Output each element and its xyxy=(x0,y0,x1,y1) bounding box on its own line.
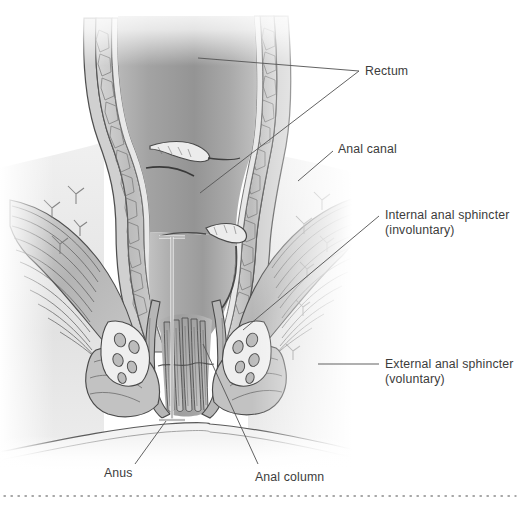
label-anus: Anus xyxy=(104,466,133,481)
label-internal-anal-sphincter-line1: Internal anal sphincter xyxy=(385,208,509,222)
label-internal-anal-sphincter: Internal anal sphincter(involuntary) xyxy=(385,208,509,237)
label-external-anal-sphincter-line2: (voluntary) xyxy=(385,372,514,387)
fade-right xyxy=(252,0,352,470)
anatomy-illustration xyxy=(0,0,520,512)
label-anal-canal: Anal canal xyxy=(338,142,397,157)
label-rectum-line1: Rectum xyxy=(365,64,408,78)
label-internal-anal-sphincter-line2: (involuntary) xyxy=(385,223,509,238)
label-rectum: Rectum xyxy=(365,64,408,79)
label-anal-canal-line1: Anal canal xyxy=(338,142,397,156)
label-anus-line1: Anus xyxy=(104,466,133,480)
label-external-anal-sphincter: External anal sphincter(voluntary) xyxy=(385,357,514,386)
label-anal-column: Anal column xyxy=(255,470,324,485)
fade-bottom xyxy=(0,436,352,470)
label-external-anal-sphincter-line1: External anal sphincter xyxy=(385,357,514,371)
anatomy-figure: RectumAnal canalInternal anal sphincter(… xyxy=(0,0,520,512)
label-anal-column-line1: Anal column xyxy=(255,470,324,484)
fade-left xyxy=(0,0,54,470)
